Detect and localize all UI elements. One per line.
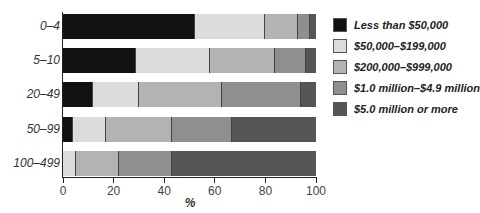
bar-segment [172, 117, 233, 142]
x-tick [214, 177, 215, 183]
legend-item: $50,000–$199,000 [333, 36, 480, 55]
bar-segment [76, 151, 119, 176]
bar-segment [298, 14, 309, 39]
bar-row [63, 82, 316, 107]
bar-segment [222, 82, 300, 107]
legend-label: $50,000–$199,000 [354, 40, 446, 52]
x-tick [316, 177, 317, 183]
y-tick-label: 100–499 [13, 156, 60, 170]
legend-label: $5.0 million or more [354, 103, 458, 115]
legend-item: $1.0 million–$4.9 million [333, 78, 480, 97]
bar-segment [63, 151, 76, 176]
x-tick-label: 60 [208, 184, 221, 198]
y-tick-label: 0–4 [40, 19, 60, 33]
bar-row [63, 48, 316, 73]
bar-segment [119, 151, 172, 176]
bar-segment [301, 82, 316, 107]
bar-segment [63, 82, 93, 107]
bar-segment [139, 82, 222, 107]
legend-swatch-icon [333, 81, 347, 95]
legend-label: $1.0 million–$4.9 million [354, 82, 480, 94]
y-tick-label: 50–99 [27, 122, 60, 136]
bar-segment [73, 117, 106, 142]
x-tick [164, 177, 165, 183]
bar-segment [306, 48, 316, 73]
bar-segment [106, 117, 172, 142]
legend-label: Less than $50,000 [354, 19, 448, 31]
legend-swatch-icon [333, 39, 347, 53]
bar-segment [310, 14, 316, 39]
x-tick [113, 177, 114, 183]
bar-segment [136, 48, 209, 73]
x-axis-line [62, 177, 317, 178]
x-tick-label: 80 [259, 184, 272, 198]
y-tick-label: 20–49 [27, 87, 60, 101]
bar-segment [172, 151, 316, 176]
legend-item: $200,000–$999,000 [333, 57, 480, 76]
legend-item: Less than $50,000 [333, 15, 480, 34]
legend-swatch-icon [333, 18, 347, 32]
x-tick-label: 100 [306, 184, 326, 198]
x-tick-label: 40 [158, 184, 171, 198]
bar-segment [93, 82, 139, 107]
legend-item: $5.0 million or more [333, 99, 480, 118]
x-tick [265, 177, 266, 183]
x-tick-label: 20 [107, 184, 120, 198]
bar-row [63, 151, 316, 176]
bar-segment [63, 48, 136, 73]
bar-row [63, 117, 316, 142]
x-tick-label: 0 [60, 184, 67, 198]
x-tick [63, 177, 64, 183]
bar-row [63, 14, 316, 39]
legend-swatch-icon [333, 102, 347, 116]
y-tick-label: 5–10 [33, 53, 60, 67]
y-axis-line [62, 12, 63, 178]
bar-segment [210, 48, 276, 73]
bar-segment [232, 117, 315, 142]
bar-segment [265, 14, 298, 39]
bar-segment [63, 117, 73, 142]
bar-segment [195, 14, 266, 39]
x-axis-title: % [185, 196, 196, 210]
legend-swatch-icon [333, 60, 347, 74]
legend-label: $200,000–$999,000 [354, 61, 452, 73]
bar-segment [63, 14, 195, 39]
legend: Less than $50,000$50,000–$199,000$200,00… [333, 15, 480, 120]
bar-segment [275, 48, 305, 73]
